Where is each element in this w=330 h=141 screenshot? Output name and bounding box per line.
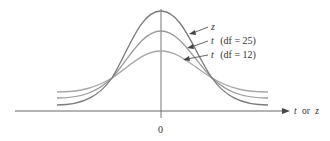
z-label: z [210, 21, 215, 32]
x-axis-arrow-icon [282, 108, 290, 114]
t-vs-z-distribution-diagram: z t (df = 25) t (df = 12) t or z 0 [0, 0, 330, 141]
z-annotation-arrow-icon [189, 27, 208, 35]
t25-annotation-arrow-icon [187, 41, 208, 49]
t12-label-var: t [211, 49, 214, 60]
t25-label: t (df = 25) [211, 35, 256, 47]
t25-label-var: t [211, 35, 214, 46]
x-axis-label: t or z [294, 106, 319, 116]
origin-label: 0 [158, 124, 163, 135]
x-axis-label-or: or [302, 106, 311, 116]
t12-label: t (df = 12) [211, 49, 256, 61]
t12-label-df: (df = 12) [220, 49, 256, 61]
t25-label-df: (df = 25) [220, 35, 256, 47]
x-axis-label-z: z [314, 106, 319, 116]
x-axis-label-t: t [294, 106, 297, 116]
